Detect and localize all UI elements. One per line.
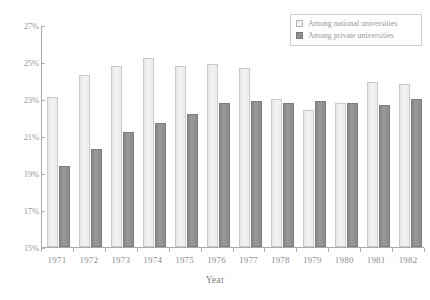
legend-entry-national: Among national universities <box>296 18 417 29</box>
x-axis-tick-mark <box>105 248 106 252</box>
bar-group <box>303 25 326 247</box>
x-axis-tick-mark <box>360 248 361 252</box>
bar-group <box>143 25 166 247</box>
bar-national <box>335 103 346 247</box>
y-axis-tick-label: 27% <box>0 22 39 30</box>
light-square-icon <box>296 20 303 27</box>
bar-national <box>47 97 58 247</box>
bar-national <box>399 84 410 247</box>
x-axis-tick-label: 1975 <box>169 255 201 265</box>
y-axis-tick-label: 15% <box>0 244 39 252</box>
x-axis-tick-mark <box>201 248 202 252</box>
legend-label-private: Among private universities <box>308 31 394 40</box>
bar-group <box>207 25 230 247</box>
bar-private <box>59 166 70 247</box>
bar-private <box>315 101 326 247</box>
legend: Among national universities Among privat… <box>290 14 422 46</box>
bar-private <box>91 149 102 247</box>
bar-group <box>367 25 390 247</box>
x-axis-tick-mark <box>233 248 234 252</box>
x-axis-tick-mark <box>73 248 74 252</box>
legend-label-national: Among national universities <box>308 19 397 28</box>
bar-group <box>47 25 70 247</box>
x-axis-tick-label: 1978 <box>264 255 296 265</box>
x-axis-tick-mark <box>296 248 297 252</box>
y-axis-tick-label: 17% <box>0 207 39 215</box>
x-axis-tick-label: 1981 <box>360 255 392 265</box>
bar-national <box>175 66 186 247</box>
bar-national <box>367 82 378 247</box>
x-axis-tick-label: 1980 <box>328 255 360 265</box>
x-axis-tick-mark <box>424 248 425 252</box>
bar-group <box>79 25 102 247</box>
bar-private <box>379 105 390 247</box>
x-axis-tick-mark <box>41 248 42 252</box>
y-axis-tick-label: 21% <box>0 133 39 141</box>
dark-square-icon <box>296 32 303 39</box>
y-axis-tick-label: 19% <box>0 170 39 178</box>
bar-private <box>219 103 230 247</box>
bar-national <box>303 110 314 247</box>
x-axis-tick-mark <box>169 248 170 252</box>
bar-national <box>111 66 122 247</box>
bar-private <box>347 103 358 247</box>
bar-private <box>411 99 422 247</box>
plot-area <box>41 26 424 248</box>
x-axis-tick-mark <box>328 248 329 252</box>
bar-group <box>111 25 134 247</box>
y-axis-tick-label: 25% <box>0 59 39 67</box>
x-axis-title: Year <box>0 275 430 285</box>
bar-group <box>271 25 294 247</box>
x-axis-tick-label: 1973 <box>105 255 137 265</box>
x-axis-tick-label: 1971 <box>41 255 73 265</box>
x-axis-tick-label: 1979 <box>296 255 328 265</box>
x-axis-tick-label: 1982 <box>392 255 424 265</box>
bar-private <box>123 132 134 247</box>
bar-national <box>79 75 90 247</box>
bar-group <box>175 25 198 247</box>
bar-group <box>239 25 262 247</box>
bar-private <box>187 114 198 247</box>
x-axis-tick-label: 1976 <box>201 255 233 265</box>
x-axis-tick-mark <box>137 248 138 252</box>
bar-group <box>335 25 358 247</box>
bar-national <box>271 99 282 247</box>
x-axis-tick-label: 1974 <box>137 255 169 265</box>
bar-private <box>155 123 166 247</box>
x-axis-tick-label: 1972 <box>73 255 105 265</box>
x-axis-tick-label: 1977 <box>233 255 265 265</box>
bar-private <box>283 103 294 247</box>
bar-group <box>399 25 422 247</box>
bar-national <box>143 58 154 247</box>
y-axis-tick-label: 23% <box>0 96 39 104</box>
bar-national <box>207 64 218 247</box>
x-axis-tick-mark <box>392 248 393 252</box>
legend-entry-private: Among private universities <box>296 30 417 41</box>
x-axis-tick-mark <box>264 248 265 252</box>
bar-private <box>251 101 262 247</box>
bar-national <box>239 68 250 247</box>
bar-chart: 15%17%19%21%23%25%27% 197119721973197419… <box>0 0 430 300</box>
